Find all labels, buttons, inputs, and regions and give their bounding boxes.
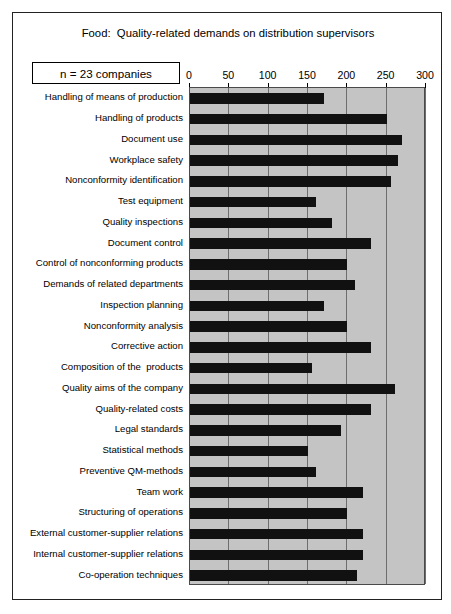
bar	[190, 93, 324, 104]
bar-row: Test equipment	[13, 191, 443, 212]
bar	[190, 570, 357, 581]
bar	[190, 529, 363, 540]
bar-row: Nonconformity identification	[13, 170, 443, 191]
bar-row: Document control	[13, 232, 443, 253]
bar-rows: Handling of means of productionHandling …	[13, 87, 443, 585]
bar	[190, 321, 347, 332]
category-label: Quality-related costs	[96, 404, 183, 414]
x-tick-label-100: 100	[259, 69, 277, 81]
bar-row: Internal customer-supplier relations	[13, 544, 443, 565]
category-label: Test equipment	[118, 196, 183, 206]
category-label: Document use	[121, 134, 183, 144]
category-label: Quality aims of the company	[62, 383, 183, 393]
sample-size-annotation: n = 23 companies	[32, 62, 180, 84]
bar-row: Preventive QM-methods	[13, 461, 443, 482]
x-tick-label-200: 200	[337, 69, 355, 81]
category-label: Structuring of operations	[78, 507, 183, 517]
bar-row: Team work	[13, 481, 443, 502]
x-axis: 050100150200250300	[189, 69, 425, 87]
category-label: Quality inspections	[102, 217, 183, 227]
x-tick-label-0: 0	[186, 69, 192, 81]
bar-row: Quality-related costs	[13, 398, 443, 419]
category-label: Control of nonconforming products	[36, 258, 183, 268]
category-label: Workplace safety	[110, 155, 183, 165]
category-label: Co-operation techniques	[78, 570, 183, 580]
category-label: Document control	[108, 238, 183, 248]
chart-figure: Food: Quality-related demands on distrib…	[12, 12, 442, 600]
bar	[190, 508, 347, 519]
bar	[190, 363, 312, 374]
bar	[190, 550, 363, 561]
bar	[190, 404, 371, 415]
category-label: Demands of related departments	[43, 279, 183, 289]
bar-row: Demands of related departments	[13, 274, 443, 295]
x-tick-label-250: 250	[377, 69, 395, 81]
bar-row: Composition of the products	[13, 357, 443, 378]
category-label: Composition of the products	[61, 362, 183, 372]
category-label: Preventive QM-methods	[80, 466, 183, 476]
bar	[190, 238, 371, 249]
category-label: Inspection planning	[100, 300, 183, 310]
bar-row: Statistical methods	[13, 440, 443, 461]
bar	[190, 425, 341, 436]
bar-row: Legal standards	[13, 419, 443, 440]
bar-row: Handling of products	[13, 108, 443, 129]
x-tick-label-300: 300	[416, 69, 434, 81]
bar	[190, 467, 316, 478]
category-label: Statistical methods	[102, 445, 183, 455]
x-tick-label-50: 50	[222, 69, 234, 81]
bar	[190, 259, 347, 270]
category-label: Nonconformity analysis	[84, 321, 183, 331]
bar-row: External customer-supplier relations	[13, 523, 443, 544]
bar	[190, 176, 391, 187]
bar-row: Corrective action	[13, 336, 443, 357]
bar-row: Co-operation techniques	[13, 564, 443, 585]
bar-row: Nonconformity analysis	[13, 315, 443, 336]
bar-row: Handling of means of production	[13, 87, 443, 108]
bar-row: Control of nonconforming products	[13, 253, 443, 274]
bar-row: Document use	[13, 129, 443, 150]
bar	[190, 114, 387, 125]
category-label: Corrective action	[111, 341, 183, 351]
category-label: Nonconformity identification	[65, 175, 183, 185]
bar	[190, 218, 332, 229]
bar	[190, 446, 308, 457]
bar	[190, 155, 398, 166]
bar-row: Quality aims of the company	[13, 378, 443, 399]
bar-row: Structuring of operations	[13, 502, 443, 523]
category-label: Handling of products	[95, 113, 183, 123]
category-label: Legal standards	[115, 424, 183, 434]
chart-title: Food: Quality-related demands on distrib…	[13, 27, 443, 39]
bar	[190, 342, 371, 353]
category-label: External customer-supplier relations	[30, 528, 183, 538]
bar	[190, 487, 363, 498]
x-tick-label-150: 150	[298, 69, 316, 81]
category-label: Team work	[137, 487, 183, 497]
bar	[190, 384, 395, 395]
bar	[190, 197, 316, 208]
bar-row: Quality inspections	[13, 212, 443, 233]
bar-row: Inspection planning	[13, 295, 443, 316]
bar-row: Workplace safety	[13, 149, 443, 170]
bar	[190, 301, 324, 312]
category-label: Internal customer-supplier relations	[33, 549, 183, 559]
bar	[190, 135, 402, 146]
category-label: Handling of means of production	[45, 92, 183, 102]
bar	[190, 280, 355, 291]
